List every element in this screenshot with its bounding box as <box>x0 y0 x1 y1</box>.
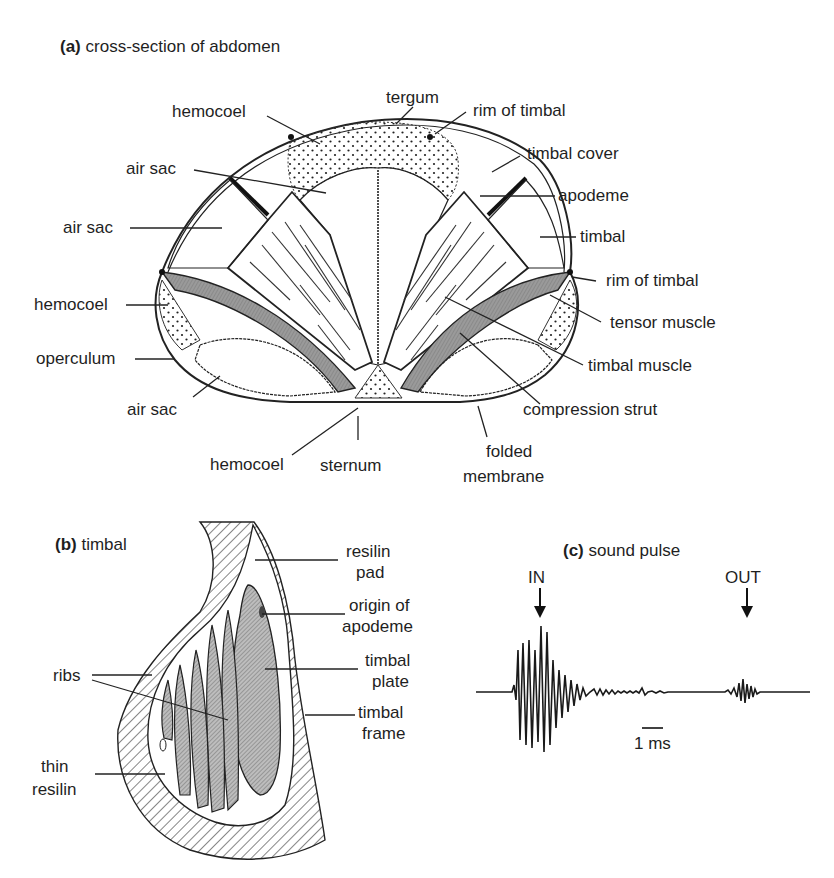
label-timbal-plate-2: plate <box>372 672 409 691</box>
label-hemocoel-bottom: hemocoel <box>210 455 284 474</box>
panel-b-letter: (b) <box>55 535 77 554</box>
cicada-sound-figure: (a) cross-section of abdomen <box>0 0 834 878</box>
panel-b-title: timbal <box>81 535 126 554</box>
label-resilin: resilin <box>346 542 390 561</box>
svg-text:(b) timbal: (b) timbal <box>55 535 127 554</box>
label-hemocoel-left: hemocoel <box>34 295 108 314</box>
apodeme-left <box>230 178 268 215</box>
panel-a-cross-section: (a) cross-section of abdomen <box>34 37 716 486</box>
label-tergum: tergum <box>386 88 439 107</box>
label-hemocoel-top: hemocoel <box>172 102 246 121</box>
panel-c-sound-pulse: (c) sound pulse IN OUT 1 ms <box>476 541 810 753</box>
panel-c-title: sound pulse <box>589 541 681 560</box>
panel-c-letter: (c) <box>563 541 584 560</box>
svg-text:(c) sound pulse: (c) sound pulse <box>563 541 680 560</box>
label-out: OUT <box>725 568 761 587</box>
hemocoel-ventral <box>355 365 402 398</box>
label-rim-of-timbal-top: rim of timbal <box>473 101 566 120</box>
label-timbal-cover: timbal cover <box>527 144 619 163</box>
label-air-sac-bottom: air sac <box>127 400 178 419</box>
label-membrane: membrane <box>463 467 544 486</box>
label-air-sac-top: air sac <box>126 159 177 178</box>
label-origin-of: origin of <box>349 596 410 615</box>
panel-b-timbal: (b) timbal resilin pa <box>32 522 413 859</box>
arrow-in-icon <box>534 588 546 618</box>
label-compression-strut: compression strut <box>523 400 657 419</box>
label-apodeme: apodeme <box>558 186 629 205</box>
arrow-out-icon <box>741 588 753 618</box>
label-tensor-muscle: tensor muscle <box>610 313 716 332</box>
panel-a-title: cross-section of abdomen <box>86 37 281 56</box>
label-in: IN <box>528 568 545 587</box>
label-rim-of-timbal-right: rim of timbal <box>606 271 699 290</box>
label-scale: 1 ms <box>634 734 671 753</box>
label-resilin-b: resilin <box>32 780 76 799</box>
label-timbal-frame-1: timbal <box>358 703 403 722</box>
label-timbal-plate-1: timbal <box>365 651 410 670</box>
label-thin: thin <box>41 757 68 776</box>
label-timbal-muscle: timbal muscle <box>588 356 692 375</box>
label-air-sac-left: air sac <box>63 218 114 237</box>
label-folded: folded <box>486 442 532 461</box>
label-ribs: ribs <box>53 666 80 685</box>
label-operculum: operculum <box>36 349 115 368</box>
label-pad: pad <box>356 563 384 582</box>
svg-text:(a) cross-section of ab: (a) cross-section of abdomen <box>60 37 280 56</box>
label-apodeme-b: apodeme <box>342 617 413 636</box>
panel-a-letter: (a) <box>60 37 81 56</box>
label-timbal: timbal <box>580 227 625 246</box>
label-timbal-frame-2: frame <box>362 724 405 743</box>
label-sternum: sternum <box>320 456 381 475</box>
